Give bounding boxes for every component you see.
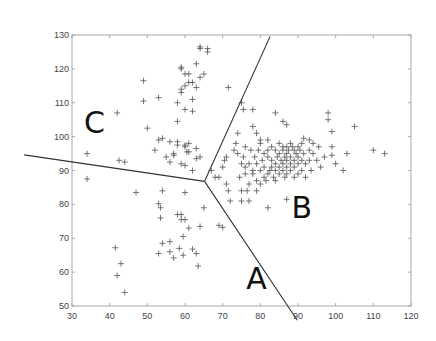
plus-marker [329, 152, 335, 158]
plus-marker [195, 263, 201, 269]
region-label-a: A [246, 261, 267, 296]
plus-marker [182, 217, 188, 223]
plus-marker [257, 137, 263, 143]
plus-marker [246, 198, 252, 204]
plus-marker [276, 140, 282, 146]
plus-marker [190, 108, 196, 114]
plus-marker [382, 151, 388, 157]
plus-marker [242, 164, 248, 170]
y-tick-label: 90 [59, 166, 69, 176]
plus-marker [255, 147, 261, 153]
y-tick-label: 100 [54, 132, 69, 142]
plus-marker [287, 154, 293, 160]
plus-marker [176, 245, 182, 251]
plus-marker [329, 144, 335, 150]
y-tick-label: 120 [54, 64, 69, 74]
plus-marker [295, 161, 301, 167]
plus-marker [141, 78, 147, 84]
plus-marker [205, 46, 211, 52]
plus-marker [246, 181, 252, 187]
plus-marker [272, 161, 278, 167]
plus-marker [261, 164, 267, 170]
plus-marker [190, 246, 196, 252]
plus-marker [250, 123, 256, 129]
plus-marker [265, 137, 271, 143]
plus-marker [159, 240, 165, 246]
plus-marker [272, 168, 278, 174]
plus-marker [220, 164, 226, 170]
plus-marker [352, 123, 358, 129]
plus-marker [240, 107, 246, 113]
plus-marker [301, 151, 307, 157]
plus-marker [178, 86, 184, 92]
y-tick-label: 80 [59, 199, 69, 209]
x-tick-label: 120 [403, 311, 418, 321]
plus-marker [272, 147, 278, 153]
plus-marker [276, 164, 282, 170]
plus-marker [114, 273, 120, 279]
y-tick-label: 110 [55, 98, 69, 108]
plus-marker [254, 130, 260, 136]
plus-marker [180, 252, 186, 258]
x-tick-label: 80 [255, 311, 265, 321]
plus-marker [233, 140, 239, 146]
plus-marker [84, 176, 90, 182]
y-tick-label: 70 [59, 233, 69, 243]
plus-marker [308, 168, 314, 174]
boundary-line [24, 155, 204, 181]
region-label-b: B [291, 190, 312, 225]
plus-marker [254, 178, 260, 184]
plus-marker [303, 161, 309, 167]
plus-marker [257, 181, 263, 187]
plus-marker [280, 118, 286, 124]
plus-marker [265, 154, 271, 160]
plus-marker [190, 79, 196, 85]
plus-marker [118, 261, 124, 267]
plus-marker [257, 168, 263, 174]
plus-marker [306, 157, 312, 163]
plus-marker [159, 135, 165, 141]
plus-marker [344, 151, 350, 157]
plus-marker [193, 250, 199, 256]
plus-marker [159, 188, 165, 194]
plus-marker [193, 85, 199, 91]
plus-marker [116, 157, 122, 163]
plus-marker [197, 46, 203, 52]
plus-marker [174, 100, 180, 106]
plus-marker [272, 110, 278, 116]
plus-marker [186, 140, 192, 146]
plus-marker [244, 188, 250, 194]
x-tick-label: 60 [180, 311, 190, 321]
plus-marker [84, 151, 90, 157]
plus-marker [306, 137, 312, 143]
plus-marker [186, 225, 192, 231]
plus-marker [295, 171, 301, 177]
plus-marker [235, 130, 241, 136]
plus-marker [276, 171, 282, 177]
plus-marker [171, 151, 177, 157]
plus-marker [182, 190, 188, 196]
plus-marker [112, 245, 118, 251]
plus-marker [242, 144, 248, 150]
plus-marker [310, 151, 316, 157]
plus-marker [227, 198, 233, 204]
plus-marker [280, 168, 286, 174]
axis-ticks: 3040506070809010011012050607080901001101… [54, 30, 419, 321]
x-tick-label: 50 [142, 311, 152, 321]
plus-marker [174, 139, 180, 145]
plus-marker [239, 198, 245, 204]
plus-marker [182, 107, 188, 113]
plus-marker [190, 168, 196, 174]
y-tick-label: 130 [54, 30, 69, 40]
series-a [84, 176, 226, 295]
plot-frame [72, 35, 411, 306]
plus-marker [167, 159, 173, 165]
plus-marker [182, 83, 188, 89]
plus-marker [193, 145, 199, 151]
plus-marker [340, 168, 346, 174]
plus-marker [314, 157, 320, 163]
plus-marker [242, 171, 248, 177]
plus-marker [197, 223, 203, 229]
plus-marker [190, 96, 196, 102]
plus-marker [306, 147, 312, 153]
